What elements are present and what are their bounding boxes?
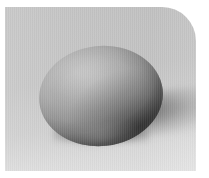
image-canvas	[0, 0, 209, 178]
photograph-plate	[5, 7, 196, 171]
egg-bounce-light	[64, 118, 138, 147]
egg-highlight	[55, 52, 136, 108]
